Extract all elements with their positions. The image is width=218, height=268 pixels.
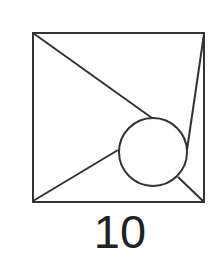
line-top-left-to-circle <box>33 33 152 118</box>
inner-circle <box>119 118 187 186</box>
line-top-right-to-circle <box>187 34 204 150</box>
line-bottom-left-to-circle <box>33 150 118 201</box>
line-bottom-right-to-circle <box>178 177 204 202</box>
figure-number-label: 10 <box>70 207 170 257</box>
